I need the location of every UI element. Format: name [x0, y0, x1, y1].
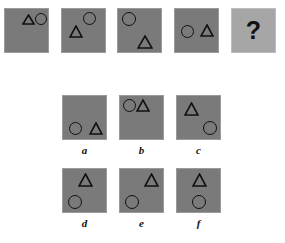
option-e-label: e	[119, 218, 164, 229]
triangle-shape	[22, 14, 35, 25]
option-f-label: f	[176, 218, 221, 229]
triangle-shape	[192, 173, 207, 187]
circle-shape	[69, 122, 82, 135]
triangle-shape	[78, 173, 93, 187]
option-a[interactable]	[62, 95, 107, 140]
answer-slot-cell[interactable]: ?	[231, 8, 276, 53]
puzzle-stage: ?abcdef	[0, 0, 285, 243]
circle-shape	[123, 99, 136, 112]
stimulus-cell-1	[4, 8, 49, 53]
circle-shape	[35, 13, 47, 25]
stimulus-cell-3	[117, 8, 162, 53]
option-d[interactable]	[62, 168, 107, 213]
option-c-label: c	[176, 145, 221, 156]
circle-shape	[181, 25, 194, 38]
option-b-label: b	[119, 145, 164, 156]
option-f[interactable]	[176, 168, 221, 213]
triangle-shape	[184, 102, 199, 116]
triangle-shape	[200, 24, 214, 37]
circle-shape	[68, 195, 82, 209]
triangle-shape	[69, 25, 83, 38]
circle-shape	[203, 121, 217, 135]
option-d-label: d	[62, 218, 107, 229]
triangle-shape	[137, 35, 153, 49]
option-c[interactable]	[176, 95, 221, 140]
circle-shape	[83, 12, 96, 25]
triangle-shape	[89, 122, 103, 135]
question-mark: ?	[232, 9, 275, 52]
option-e[interactable]	[119, 168, 164, 213]
triangle-shape	[144, 173, 159, 187]
stimulus-cell-2	[61, 8, 106, 53]
stimulus-cell-4	[174, 8, 219, 53]
circle-shape	[122, 12, 136, 26]
triangle-shape	[136, 99, 150, 112]
option-b[interactable]	[119, 95, 164, 140]
option-a-label: a	[62, 145, 107, 156]
circle-shape	[192, 195, 206, 209]
circle-shape	[125, 195, 139, 209]
